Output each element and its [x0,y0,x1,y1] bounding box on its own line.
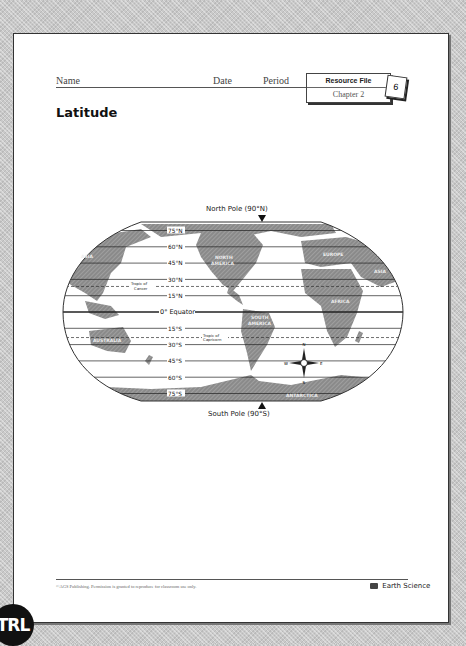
latitude-label: 15°S [168,326,182,332]
latitude-label: 75°S [168,391,182,397]
compass-w-label: W [284,361,288,366]
continent-label-asia-west: ASIA [81,254,93,259]
land-masses [63,224,403,403]
continent-label-antarctica: ANTARCTICA [286,393,318,398]
book-icon [370,583,378,589]
landmass-new-zealand [145,355,153,365]
latitude-label: 45°S [168,358,182,364]
latitude-label: 0° Equator [160,308,195,316]
continent-label-south-america-2: AMERICA [248,321,271,326]
latitude-labels: 75°N60°N45°N30°N15°N0° Equator15°S30°S45… [159,227,195,397]
tropic-label: Cancer [134,286,148,291]
landmass-se-asia [85,301,119,319]
compass-n-label: N [303,342,306,347]
latitude-label: 60°S [168,375,182,381]
latitude-label: 45°N [168,260,183,266]
landmass-madagascar [355,331,363,343]
continent-label-north-america-1: NORTH [215,255,233,260]
latitude-label: 60°N [168,244,183,250]
tropic-label: Capricorn [203,337,222,342]
continent-label-africa: AFRICA [331,299,350,304]
continent-label-europe: EUROPE [323,252,343,257]
latitude-label: 30°S [168,342,182,348]
continent-label-asia-east: ASIA [374,269,386,274]
copyright-text: ©AGS Publishing. Permission is granted t… [56,584,196,589]
landmass-africa [301,269,363,347]
continent-label-south-america-1: SOUTH [251,315,269,320]
worksheet-page: Name Date Period Resource File Chapter 2… [13,33,449,623]
footer-brand: Earth Science [370,582,430,590]
north-pole-marker [258,215,266,222]
world-latitude-map: 75°N60°N45°N30°N15°N0° Equator15°S30°S45… [14,34,448,622]
trl-badge: TRL [0,604,34,646]
latitude-label: 30°N [168,277,183,283]
footer-rule [56,579,408,580]
earth-science-label: Earth Science [382,582,430,590]
continent-label-north-america-2: AMERICA [211,261,234,266]
continent-label-australia: AUSTRALIA [93,338,122,343]
latitude-label: 75°N [168,228,183,234]
south-pole-marker [258,402,266,409]
latitude-label: 15°N [168,293,183,299]
compass-rose: N S E W [284,342,323,385]
